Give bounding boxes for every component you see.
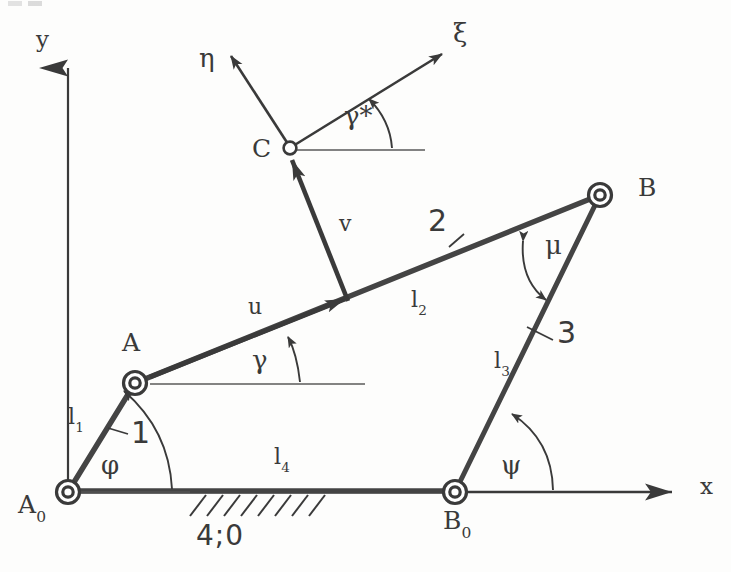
- length-l2-sub: 2: [418, 302, 427, 318]
- ground-link-4: [68, 491, 455, 516]
- link-number-2: 2: [428, 206, 447, 236]
- point-label-A0-sub: 0: [36, 508, 46, 526]
- point-label-B0-base: B: [443, 506, 461, 535]
- length-label-l1: l1: [68, 406, 84, 432]
- link-3-line: [455, 195, 600, 492]
- gamma-arc: [288, 337, 300, 382]
- point-label-C: C: [252, 136, 271, 161]
- joint-B: [589, 184, 612, 207]
- v-vector-label: v: [339, 213, 351, 235]
- length-label-l2: l2: [411, 289, 427, 315]
- point-label-B0: B0: [443, 508, 471, 539]
- joint-A: [124, 372, 147, 395]
- length-l1-sub: 1: [75, 419, 84, 435]
- x-axis-label: x: [700, 475, 713, 498]
- angle-label-mu: μ: [545, 232, 562, 258]
- point-label-A0: A0: [18, 492, 46, 523]
- kinematic-diagram: y x A0 A B B0 C 1 2 3 l1 l2 l3 l4 φ γ μ …: [0, 0, 731, 572]
- length-l3-base: l: [494, 348, 501, 373]
- u-vector-label: u: [248, 296, 262, 318]
- point-label-B0-sub: 0: [462, 524, 472, 542]
- angle-label-phi: φ: [101, 452, 119, 478]
- xi-axis: [293, 54, 442, 146]
- length-l3-sub: 3: [501, 363, 510, 379]
- ground-hatching: [190, 495, 325, 516]
- angle-label-gamma: γ: [252, 347, 268, 373]
- eta-axis: [231, 56, 288, 144]
- joint-C: [284, 142, 297, 155]
- angle-label-gamma-star: γ*: [344, 103, 373, 129]
- joint-B0: [444, 481, 467, 504]
- link-number-leaders: [108, 234, 553, 434]
- point-label-B: B: [638, 175, 656, 200]
- ground-label: 4;0: [196, 522, 244, 550]
- length-l2-base: l: [411, 287, 418, 312]
- length-label-l3: l3: [494, 350, 510, 376]
- eta-axis-label: η: [199, 45, 215, 71]
- link-number-3: 3: [557, 318, 576, 348]
- length-l4-base: l: [274, 444, 281, 469]
- mu-arc: [523, 241, 546, 300]
- link-number-1: 1: [131, 418, 150, 448]
- length-label-l4: l4: [274, 446, 290, 472]
- coupler-construction: [150, 160, 348, 377]
- angle-arcs: [68, 241, 553, 492]
- diagram-canvas: [0, 0, 731, 572]
- length-l1-base: l: [68, 404, 75, 429]
- point-label-A: A: [122, 330, 140, 355]
- joint-A0: [57, 481, 80, 504]
- angle-label-psi: ψ: [501, 452, 521, 478]
- length-l4-sub: 4: [281, 459, 290, 475]
- leader-link-2: [449, 234, 464, 247]
- coordinate-axes: [68, 68, 672, 492]
- point-label-A0-base: A: [18, 490, 36, 519]
- y-axis-label: y: [36, 28, 49, 51]
- xi-axis-label: ξ: [453, 20, 467, 46]
- leader-link-1: [108, 428, 128, 434]
